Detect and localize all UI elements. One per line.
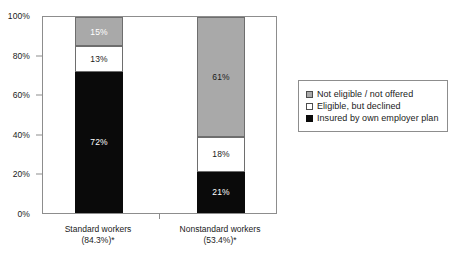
- y-tick-label-80: 80%: [13, 51, 30, 61]
- bar-segment-not-eligible[interactable]: 61%: [197, 17, 245, 137]
- y-tick-label-100: 100%: [8, 11, 30, 21]
- legend-item-not-eligible[interactable]: Not eligible / not offered: [306, 89, 441, 99]
- x-axis-label-standard-sublabel: (84.3%)*: [33, 235, 163, 246]
- x-axis-label-nonstandard-name: Nonstandard workers: [180, 224, 261, 234]
- x-tick-mark-divider: [159, 214, 160, 219]
- plot-area: 15% 13% 72% 61% 18% 21%: [42, 16, 277, 214]
- x-axis-label-nonstandard-sublabel: (53.4%)*: [155, 235, 285, 246]
- y-tick-label-0: 0%: [18, 209, 31, 219]
- chart-legend: Not eligible / not offered Eligible, but…: [298, 80, 448, 132]
- legend-item-insured[interactable]: Insured by own employer plan: [306, 113, 441, 123]
- chart-figure: 100% 80% 60% 40% 20% 0% 15% 13% 72% 61% …: [0, 0, 455, 262]
- legend-item-eligible-declined[interactable]: Eligible, but declined: [306, 101, 441, 111]
- x-axis-label-nonstandard-workers: Nonstandard workers (53.4%)*: [155, 224, 285, 246]
- bar-segment-insured[interactable]: 21%: [197, 172, 245, 213]
- y-tick-label-40: 40%: [13, 130, 30, 140]
- x-axis-label-standard-name: Standard workers: [65, 224, 132, 234]
- bar-segment-eligible-declined[interactable]: 13%: [75, 46, 123, 71]
- bar-standard-workers[interactable]: 15% 13% 72%: [75, 17, 123, 213]
- legend-label-insured: Insured by own employer plan: [317, 113, 438, 123]
- bar-segment-not-eligible[interactable]: 15%: [75, 17, 123, 46]
- legend-swatch-white-icon: [306, 103, 313, 110]
- legend-label-eligible-declined: Eligible, but declined: [317, 101, 401, 111]
- y-tick-label-60: 60%: [13, 90, 30, 100]
- y-tick-label-20: 20%: [13, 169, 30, 179]
- bar-nonstandard-workers[interactable]: 61% 18% 21%: [197, 17, 245, 213]
- y-axis: 100% 80% 60% 40% 20% 0%: [0, 16, 36, 214]
- bar-segment-insured[interactable]: 72%: [75, 72, 123, 213]
- legend-label-not-eligible: Not eligible / not offered: [317, 89, 413, 99]
- bar-segment-eligible-declined[interactable]: 18%: [197, 137, 245, 172]
- x-axis-label-standard-workers: Standard workers (84.3%)*: [33, 224, 163, 246]
- legend-swatch-black-icon: [306, 115, 313, 122]
- legend-swatch-gray-icon: [306, 91, 313, 98]
